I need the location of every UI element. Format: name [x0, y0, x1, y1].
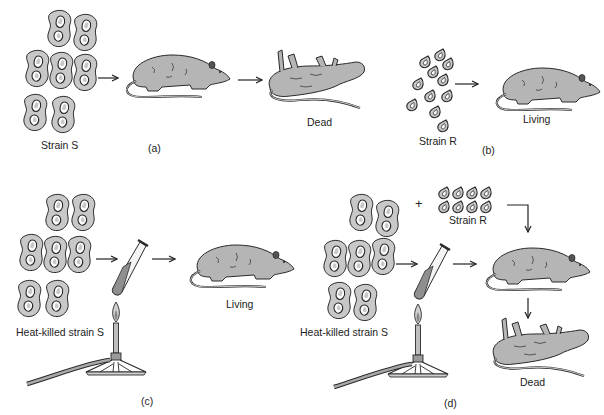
test-tube-icon — [414, 244, 450, 299]
panel-a-label: (a) — [148, 142, 161, 154]
strain-r-cells — [407, 49, 453, 132]
griffith-experiment-diagram: Strain S (a) Dead Strain R (b) Living He… — [0, 0, 604, 415]
living-label: Living — [226, 298, 253, 310]
heat-killed-strain-s-cells — [18, 194, 95, 316]
plus-sign: + — [415, 196, 423, 211]
dead-label: Dead — [307, 116, 332, 128]
panel-a — [24, 10, 365, 132]
strain-r-label: Strain R — [449, 214, 487, 226]
mouse-injected — [127, 55, 230, 97]
panel-d-label: (d) — [444, 397, 457, 409]
strain-s-label: Strain S — [41, 139, 78, 151]
heat-killed-strain-s-label: Heat-killed strain S — [300, 326, 388, 338]
panel-c-label: (c) — [141, 395, 153, 407]
heat-killed-strain-s-label: Heat-killed strain S — [16, 326, 104, 338]
heat-killed-strain-s-cells — [324, 194, 399, 320]
living-label: Living — [523, 113, 550, 125]
strain-r-label: Strain R — [419, 135, 457, 147]
panel-b-label: (b) — [482, 144, 495, 156]
mouse-injected — [487, 248, 590, 290]
mouse-dead — [269, 50, 364, 108]
strain-r-cells — [439, 187, 491, 213]
mouse-dead — [493, 318, 588, 376]
test-tube-icon — [112, 240, 148, 295]
strain-s-cells — [24, 10, 97, 132]
arrow-icon — [507, 205, 528, 232]
panel-c — [18, 194, 294, 384]
mouse-living — [497, 68, 600, 110]
panel-b — [407, 49, 600, 132]
mouse-living — [191, 245, 294, 287]
dead-label: Dead — [520, 376, 545, 388]
